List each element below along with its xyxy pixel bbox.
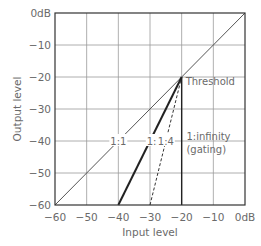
y-axis-ticks: 0dB−10−20−30−40−50−60 xyxy=(29,7,51,211)
y-axis-label: Output level xyxy=(11,77,23,142)
ratio-label: 1:4 xyxy=(158,136,174,147)
chart-svg: −60−50−40−30−20−100dB 0dB−10−20−30−40−50… xyxy=(0,0,261,246)
x-axis-label: Input level xyxy=(122,226,178,238)
y-tick-label: −40 xyxy=(29,135,51,147)
y-tick-label: 0dB xyxy=(30,7,51,19)
ratio-label: 1:infinity xyxy=(186,131,230,142)
y-tick-label: −10 xyxy=(29,39,51,51)
threshold-label: Threshold xyxy=(185,76,235,87)
y-tick-label: −50 xyxy=(29,167,51,179)
x-tick-label: −30 xyxy=(139,211,161,223)
x-tick-label: 0dB xyxy=(235,211,256,223)
x-tick-label: −50 xyxy=(76,211,98,223)
x-tick-label: −10 xyxy=(202,211,224,223)
x-tick-label: −60 xyxy=(44,211,66,223)
ratio-label: 1:1 xyxy=(110,136,126,147)
y-tick-label: −20 xyxy=(29,71,51,83)
x-tick-label: −20 xyxy=(171,211,193,223)
x-axis-ticks: −60−50−40−30−20−100dB xyxy=(44,211,255,223)
compression-ratio-chart: −60−50−40−30−20−100dB 0dB−10−20−30−40−50… xyxy=(0,0,261,246)
ratio-sublabel: (gating) xyxy=(186,144,226,155)
y-tick-label: −30 xyxy=(29,103,51,115)
x-tick-label: −40 xyxy=(107,211,129,223)
y-tick-label: −60 xyxy=(29,199,51,211)
